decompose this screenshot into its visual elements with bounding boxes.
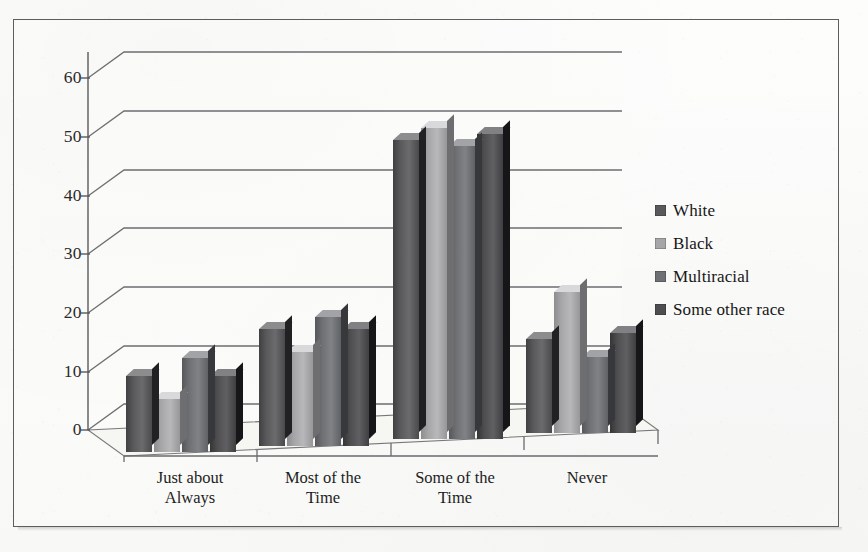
bar-side [180, 385, 187, 445]
bar-side [580, 278, 587, 426]
bar-side [152, 362, 159, 445]
legend-item-multiracial[interactable]: Multiracial [655, 260, 845, 293]
bar-face [259, 329, 285, 446]
bar-side [285, 315, 292, 439]
bar-side [369, 315, 376, 439]
bar-side [608, 343, 615, 426]
x-category-1: Most of the Time [258, 468, 388, 508]
bar-side [447, 114, 454, 432]
legend-swatch-black [655, 238, 666, 249]
bar-side [208, 344, 215, 445]
legend-item-some-other-race[interactable]: Some other race [655, 293, 845, 326]
x-category-2: Some of the Time [390, 468, 520, 508]
legend-swatch-white [655, 205, 666, 216]
legend-label-some-other-race: Some other race [673, 300, 785, 320]
legend-item-white[interactable]: White [655, 194, 845, 227]
legend-swatch-multiracial [655, 271, 666, 282]
x-category-0: Just about Always [125, 468, 255, 508]
bar-side [475, 132, 482, 432]
bar-side [236, 362, 243, 445]
bar-face [526, 339, 552, 433]
x-category-0-line1: Just about [125, 468, 255, 488]
x-category-2-line2: Time [390, 488, 520, 508]
x-category-2-line1: Some of the [390, 468, 520, 488]
bar-face [126, 376, 152, 452]
bar-side [636, 320, 643, 426]
legend-item-black[interactable]: Black [655, 227, 845, 260]
bar-side [419, 126, 426, 432]
x-category-0-line2: Always [125, 488, 255, 508]
x-category-3: Never [522, 468, 652, 488]
x-category-1-line2: Time [258, 488, 388, 508]
bar-3-0 [526, 339, 552, 433]
legend-swatch-some-other-race [655, 304, 666, 315]
x-category-3-line1: Never [522, 468, 652, 488]
legend-label-black: Black [673, 234, 713, 254]
bar-0-0 [126, 376, 152, 452]
bar-side [341, 303, 348, 439]
legend-label-multiracial: Multiracial [673, 267, 750, 287]
bar-side [503, 120, 510, 432]
legend-label-white: White [673, 201, 715, 221]
x-category-1-line1: Most of the [258, 468, 388, 488]
chart-legend: White Black Multiracial Some other race [655, 194, 845, 326]
bar-face [393, 140, 419, 439]
bar-side [313, 338, 320, 439]
bar-side [552, 325, 559, 426]
bar-1-0 [259, 329, 285, 446]
bar-2-0 [393, 140, 419, 439]
